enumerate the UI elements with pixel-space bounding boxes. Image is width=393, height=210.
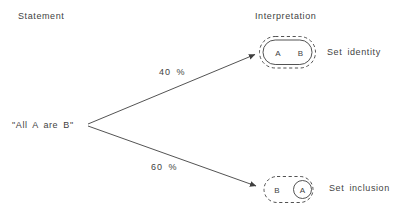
statement-text: "All A are B" [12,120,74,130]
statement-column-header: Statement [18,11,64,21]
probability-label-top: 40 % [159,67,186,77]
diagram-canvas [0,0,393,210]
interpretation-column-header: Interpretation [255,11,316,21]
set-identity-stadium [263,40,312,65]
arrow-to-set-inclusion [88,126,256,186]
branching-diagram: Statement Interpretation "All A are B" 4… [0,0,393,210]
set-inclusion-left-letter: B [274,185,279,194]
set-inclusion-right-letter: A [300,185,305,194]
set-identity-label: Set identity [327,47,381,57]
set-identity-right-letter: B [298,48,303,57]
set-inclusion-label: Set inclusion [329,183,390,193]
probability-label-bottom: 60 % [151,162,178,172]
arrow-to-set-identity [88,55,255,125]
set-identity-left-letter: A [275,48,280,57]
